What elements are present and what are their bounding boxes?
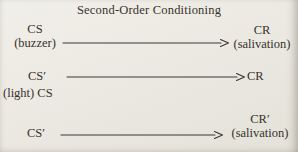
row1-stimulus-stack: CS (buzzer) (4, 22, 66, 50)
row1-stimulus-term: CS (4, 22, 66, 36)
row1-response-sub: (salivation) (228, 37, 296, 51)
row3-response-sub: (salivation) (226, 126, 294, 140)
figure-title: Second-Order Conditioning (0, 3, 298, 18)
row1-arrow-icon (62, 37, 230, 49)
row2-arrow-icon (66, 71, 246, 83)
row3-response-term: CR′ (226, 112, 294, 126)
row2-response-term: CR (247, 69, 264, 83)
row1-stimulus-sub: (buzzer) (4, 36, 66, 50)
second-order-conditioning-figure: Second-Order Conditioning CS (buzzer) CR… (0, 0, 298, 152)
row3-stimulus-term: CS′ (27, 126, 45, 140)
row3-arrow-icon (60, 129, 224, 141)
row2-stimulus-sub: (light) CS (3, 86, 53, 100)
row1-response-term: CR (228, 23, 296, 37)
row3-response-stack: CR′ (salivation) (226, 112, 294, 140)
row1-response-stack: CR (salivation) (228, 23, 296, 51)
row2-stimulus-term: CS′ (28, 69, 46, 83)
